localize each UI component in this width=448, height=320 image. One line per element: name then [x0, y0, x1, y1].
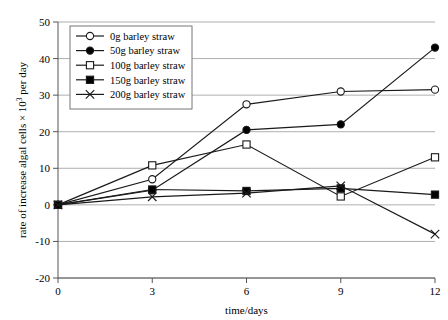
y-tick-label: 0 [45, 199, 51, 211]
line-chart: 50403020100-10-20 036912 rate of increas… [0, 0, 448, 320]
y-axis-title: rate of increase algal cells × 103 per d… [15, 61, 28, 238]
chart-legend: 0g barley straw50g barley straw100g barl… [70, 26, 192, 109]
data-point [149, 176, 156, 183]
legend-marker-icon [86, 32, 93, 39]
data-point [337, 121, 344, 128]
legend-label: 200g barley straw [110, 89, 186, 100]
data-point [149, 186, 156, 193]
x-tick-label: 0 [55, 285, 61, 297]
data-point [243, 126, 250, 133]
legend-label: 100g barley straw [110, 60, 186, 71]
data-point [431, 191, 438, 198]
data-point [431, 154, 438, 161]
data-point [243, 101, 250, 108]
data-point [431, 86, 438, 93]
x-axis-title: time/days [225, 304, 268, 316]
y-tick-label: 40 [39, 53, 51, 65]
legend-marker-icon [86, 76, 93, 83]
y-tick-label: 10 [39, 162, 51, 174]
y-tick-label: 30 [39, 89, 51, 101]
x-tick-label: 12 [430, 285, 441, 297]
data-point [149, 162, 156, 169]
data-point [243, 141, 250, 148]
legend-label: 150g barley straw [110, 75, 186, 86]
x-tick-label: 9 [338, 285, 344, 297]
legend-label: 50g barley straw [110, 45, 180, 56]
y-tick-label: 20 [39, 126, 51, 138]
legend-marker-icon [86, 47, 93, 54]
chart-background [0, 0, 448, 320]
legend-marker-icon [86, 62, 93, 69]
data-point [337, 193, 344, 200]
y-tick-label: -20 [35, 272, 50, 284]
legend-label: 0g barley straw [110, 31, 175, 42]
chart-figure: 50403020100-10-20 036912 rate of increas… [0, 0, 448, 320]
y-tick-label: 50 [39, 16, 51, 28]
data-point [337, 88, 344, 95]
x-tick-label: 3 [150, 285, 156, 297]
x-tick-label: 6 [244, 285, 250, 297]
y-tick-label: -10 [35, 235, 50, 247]
data-point [431, 44, 438, 51]
